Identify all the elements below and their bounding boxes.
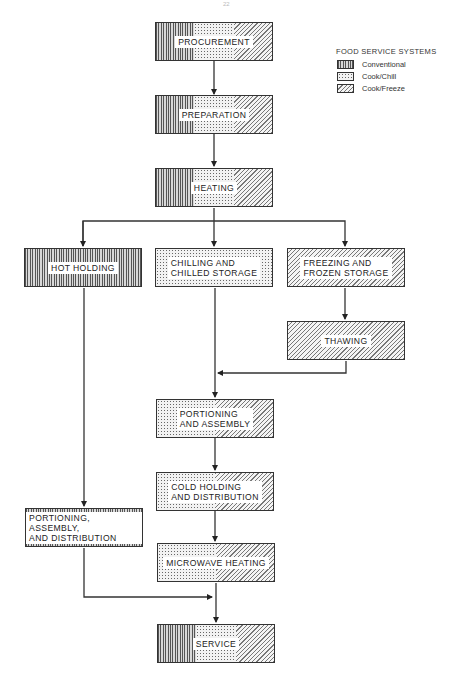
node-thawing: THAWING [287,321,405,360]
dots-swatch-icon [337,72,354,81]
node-label: PORTIONING AND ASSEMBLY [177,408,254,430]
legend-item-cook-freeze: Cook/Freeze [336,82,436,94]
legend-label: Conventional [362,60,406,69]
legend: FOOD SERVICE SYSTEMS Conventional Cook/C… [336,47,436,94]
node-portioning-assembly: PORTIONING AND ASSEMBLY [156,399,274,438]
legend-item-cook-chill: Cook/Chill [336,70,436,82]
node-label: MICROWAVE HEATING [163,557,269,569]
node-label: CHILLING AND CHILLED STORAGE [168,257,261,279]
legend-item-conventional: Conventional [336,58,436,70]
node-label: SERVICE [193,638,239,650]
legend-label: Cook/Chill [362,72,396,81]
node-label: HEATING [191,182,237,194]
node-chilling: CHILLING AND CHILLED STORAGE [155,248,273,287]
node-procurement: PROCUREMENT [155,22,273,61]
node-cold-holding: COLD HOLDING AND DISTRIBUTION [156,472,274,511]
node-label: THAWING [321,335,370,347]
node-label: PROCUREMENT [175,36,253,48]
node-hot-holding: HOT HOLDING [24,248,142,287]
legend-title: FOOD SERVICE SYSTEMS [336,47,436,56]
vertical-lines-swatch-icon [337,60,354,69]
diagonal-hatch-swatch-icon [337,84,354,93]
node-preparation: PREPARATION [155,95,273,134]
node-microwave-heating: MICROWAVE HEATING [157,543,275,582]
node-label: FREEZING AND FROZEN STORAGE [300,257,391,279]
legend-label: Cook/Freeze [362,84,405,93]
node-label: PREPARATION [179,109,250,121]
node-label: HOT HOLDING [48,262,118,274]
node-label: PORTIONING, ASSEMBLY, AND DISTRIBUTION [26,512,142,544]
node-service: SERVICE [157,624,275,663]
node-freezing: FREEZING AND FROZEN STORAGE [287,248,405,287]
node-portioning-distribution: PORTIONING, ASSEMBLY, AND DISTRIBUTION [25,508,143,547]
node-label: COLD HOLDING AND DISTRIBUTION [168,481,262,503]
node-heating: HEATING [155,168,273,207]
